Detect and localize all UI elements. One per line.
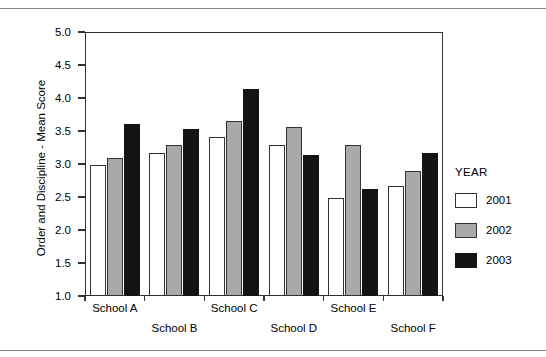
bar-group — [264, 32, 324, 296]
y-axis-tick-label: 1.5 — [31, 257, 71, 269]
bar-group — [145, 32, 205, 296]
bar-school-d-2003 — [303, 155, 319, 296]
bar-school-e-2003 — [362, 189, 378, 296]
y-axis-tick — [78, 31, 85, 32]
bar-chart-figure: Order and Discipline - Mean Score 5.04.5… — [0, 0, 546, 357]
bar-school-b-2001 — [149, 153, 165, 296]
bar-group — [324, 32, 384, 296]
x-axis-tick — [383, 296, 384, 301]
bar-group — [383, 32, 443, 296]
x-axis-label-school-b: School B — [151, 322, 197, 334]
x-axis-label-school-c: School C — [211, 302, 258, 314]
bars-layer — [85, 32, 443, 296]
x-axis-tick — [323, 296, 324, 301]
legend-swatch-2001 — [455, 193, 477, 208]
y-axis-tick-label: 3.5 — [31, 125, 71, 137]
bar-school-e-2002 — [345, 145, 361, 296]
bar-school-e-2001 — [328, 198, 344, 296]
x-axis-tick-labels: School ASchool BSchool CSchool DSchool E… — [85, 296, 443, 356]
legend-title: YEAR — [455, 166, 543, 178]
bar-school-d-2002 — [286, 127, 302, 296]
y-axis-tick-label: 4.5 — [31, 59, 71, 71]
y-axis-tick-labels: 5.04.54.03.53.02.52.01.51.0 — [31, 0, 71, 357]
bar-school-c-2001 — [209, 137, 225, 296]
y-axis-tick-label: 4.0 — [31, 92, 71, 104]
x-axis-label-school-e: School E — [330, 302, 376, 314]
legend-swatch-2002 — [455, 223, 477, 238]
y-axis-tick — [78, 262, 85, 263]
x-axis-tick — [204, 296, 205, 301]
bar-school-a-2001 — [90, 165, 106, 296]
bar-group — [85, 32, 145, 296]
bar-school-b-2003 — [183, 129, 199, 296]
y-axis-tick — [78, 64, 85, 65]
y-axis-tick-label: 2.5 — [31, 191, 71, 203]
top-divider-rule — [0, 8, 546, 9]
bar-school-d-2001 — [269, 145, 285, 296]
y-axis-tick — [78, 196, 85, 197]
y-axis-tick-label: 3.0 — [31, 158, 71, 170]
legend-item-2002: 2002 — [455, 215, 543, 245]
legend-swatch-2003 — [455, 253, 477, 268]
bar-school-f-2002 — [405, 171, 421, 296]
y-axis-tick — [78, 130, 85, 131]
y-axis-tick-label: 5.0 — [31, 26, 71, 38]
bar-school-a-2002 — [107, 158, 123, 296]
bar-school-c-2003 — [243, 89, 259, 296]
bar-school-b-2002 — [166, 145, 182, 296]
bar-school-f-2003 — [422, 153, 438, 296]
x-axis-label-school-a: School A — [92, 302, 137, 314]
legend-item-2003: 2003 — [455, 245, 543, 275]
x-axis-tick — [144, 296, 145, 301]
legend-item-2001: 2001 — [455, 185, 543, 215]
x-axis-tick — [442, 296, 443, 301]
legend-label-2002: 2002 — [486, 224, 512, 236]
x-axis-tick — [263, 296, 264, 301]
bar-school-c-2002 — [226, 121, 242, 296]
y-axis-tick-label: 2.0 — [31, 224, 71, 236]
y-axis-tick — [78, 229, 85, 230]
x-axis-label-school-d: School D — [270, 322, 317, 334]
x-axis-tick — [84, 296, 85, 301]
legend-label-2003: 2003 — [486, 254, 512, 266]
legend-items: 200120022003 — [455, 185, 543, 275]
bar-school-f-2001 — [388, 186, 404, 296]
y-axis-tick — [78, 163, 85, 164]
bar-group — [204, 32, 264, 296]
y-axis-tick-label: 1.0 — [31, 290, 71, 302]
legend: YEAR 200120022003 — [455, 166, 543, 275]
y-axis-tick — [78, 97, 85, 98]
bar-school-a-2003 — [124, 124, 140, 296]
x-axis-label-school-f: School F — [390, 322, 435, 334]
legend-label-2001: 2001 — [486, 194, 512, 206]
